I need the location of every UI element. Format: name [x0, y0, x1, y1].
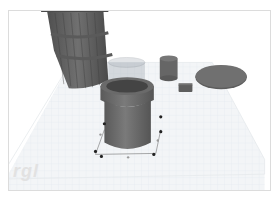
resize-handle[interactable] — [159, 115, 162, 118]
resize-handle[interactable] — [159, 130, 162, 133]
resize-handle[interactable] — [152, 153, 155, 156]
watermark-logo: rgl — [13, 161, 39, 182]
resize-handle[interactable] — [94, 150, 97, 153]
resize-handle[interactable] — [103, 122, 106, 125]
midpoint-handle[interactable] — [127, 156, 129, 158]
small-box-object[interactable] — [179, 83, 193, 92]
flat-disc-object[interactable] — [195, 65, 246, 89]
scene-canvas[interactable] — [9, 11, 270, 190]
midpoint-handle[interactable] — [99, 133, 101, 135]
3d-viewport[interactable]: rgl — [8, 10, 271, 191]
resize-handle[interactable] — [100, 155, 103, 158]
small-cylinder-object[interactable] — [160, 56, 178, 82]
midpoint-handle[interactable] — [157, 139, 159, 141]
barrel-object[interactable] — [41, 11, 112, 88]
